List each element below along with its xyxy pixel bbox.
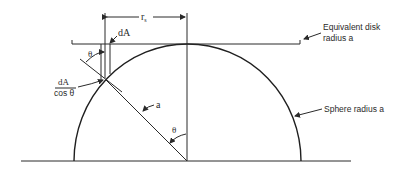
disk-label-pointer <box>304 33 321 39</box>
disk-label-line2: radius a <box>323 33 354 43</box>
theta-center-arc <box>170 134 186 143</box>
dA-over-cos-pointer <box>78 80 103 87</box>
theta-top-label: θ <box>88 49 92 59</box>
theta-center-label: θ <box>172 125 176 135</box>
dA-label: dA <box>118 27 131 38</box>
sphere-disk-diagram: rs dA θ dA cos θ a θ Equivalent disk rad… <box>0 0 399 169</box>
radius-line <box>106 80 187 161</box>
dA-over-cos-numerator: dA <box>58 77 70 87</box>
dA-over-cos-denominator: cos θ <box>54 88 75 98</box>
rs-label: rs <box>141 11 147 23</box>
sphere-label: Sphere radius a <box>324 104 384 114</box>
disk-label-line1: Equivalent disk <box>323 22 381 32</box>
a-label: a <box>156 99 161 110</box>
a-pointer <box>143 105 154 111</box>
dA-pointer <box>110 36 117 43</box>
sphere-label-pointer <box>295 109 322 116</box>
